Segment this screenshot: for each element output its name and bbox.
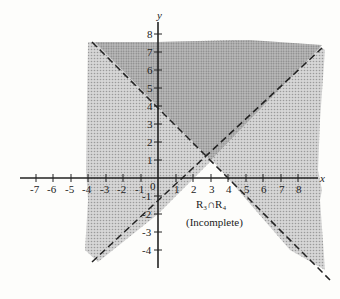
- y-tick: 5: [147, 82, 153, 94]
- graph: -7 -6 -5 -4 -3 -2 -1 1 2 3 4 5 6 7 8 x: [0, 0, 340, 299]
- x-tick: 6: [261, 183, 267, 195]
- y-tick: 4: [147, 100, 153, 112]
- region-label-incomplete: (Incomplete): [186, 216, 243, 229]
- y-tick: 1: [147, 154, 153, 166]
- x-tick: 2: [191, 183, 197, 195]
- x-tick: 8: [296, 183, 302, 195]
- x-tick: 5: [244, 183, 250, 195]
- x-tick: -4: [82, 183, 92, 195]
- x-tick: -7: [30, 183, 40, 195]
- y-tick: 7: [147, 46, 153, 58]
- origin-label: 0: [150, 180, 156, 192]
- y-axis-label: y: [156, 9, 162, 21]
- x-tick: 3: [209, 183, 215, 195]
- x-tick: -6: [47, 183, 57, 195]
- y-tick: 8: [147, 28, 153, 40]
- x-tick: -3: [100, 183, 110, 195]
- x-tick: 4: [226, 183, 232, 195]
- x-axis-label: x: [319, 172, 325, 184]
- y-tick: -2: [142, 208, 151, 220]
- y-tick: -4: [142, 244, 152, 256]
- x-tick: 7: [279, 183, 285, 195]
- y-tick: -3: [142, 226, 152, 238]
- x-tick: -2: [117, 183, 126, 195]
- y-tick: 2: [147, 136, 153, 148]
- y-tick: 6: [147, 64, 153, 76]
- region-label: R₃∩R₄: [196, 198, 226, 210]
- y-tick: 3: [147, 118, 153, 130]
- x-tick: -5: [65, 183, 75, 195]
- x-tick: 1: [174, 183, 180, 195]
